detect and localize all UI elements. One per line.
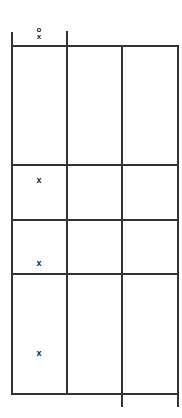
grid-row-divider-3 (11, 273, 178, 275)
grid-bottom-border (11, 393, 178, 395)
grid-column-divider-2 (121, 45, 123, 407)
row-3-mark: x (32, 259, 46, 267)
grid-column-divider-1 (66, 31, 68, 394)
row-4-mark: x (32, 349, 46, 357)
grid-top-border (11, 45, 178, 47)
grid-row-divider-2 (11, 219, 178, 221)
grid-row-divider-1 (11, 164, 178, 166)
grid-left-border (11, 32, 13, 394)
row-2-mark: x (32, 176, 46, 184)
header-symbol-x: x (32, 34, 46, 40)
grid-right-border (177, 45, 179, 407)
